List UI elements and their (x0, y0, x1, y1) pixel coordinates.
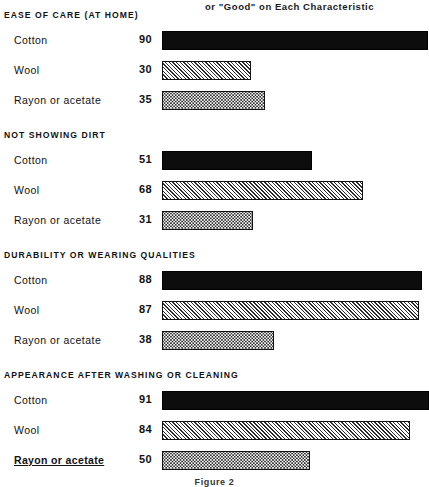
bar-rayon-or-acetate (162, 451, 310, 470)
bar-value: 31 (86, 213, 152, 225)
bar-row: Rayon or acetate35 (0, 90, 429, 114)
bar-wool (162, 421, 410, 440)
bar-row: Rayon or acetate31 (0, 210, 429, 234)
bar-row: Wool84 (0, 420, 429, 444)
chart-group: NOT SHOWING DIRTCotton51Wool68Rayon or a… (0, 130, 429, 245)
bar-row: Wool30 (0, 60, 429, 84)
bar-cotton (162, 151, 312, 170)
bar-value: 35 (86, 93, 152, 105)
bar-value: 87 (86, 303, 152, 315)
bar-row: Cotton51 (0, 150, 429, 174)
chart-group: DURABILITY OR WEARING QUALITIESCotton88W… (0, 250, 429, 365)
bar-cotton (162, 271, 422, 290)
bar-row: Wool87 (0, 300, 429, 324)
figure-caption: Figure 2 (0, 477, 429, 487)
bar-label: Cotton (14, 154, 48, 166)
bar-value: 68 (86, 183, 152, 195)
group-title: NOT SHOWING DIRT (4, 130, 106, 140)
bar-value: 91 (86, 393, 152, 405)
group-title: APPEARANCE AFTER WASHING OR CLEANING (4, 370, 239, 380)
chart-group: EASE OF CARE (AT HOME)Cotton90Wool30Rayo… (0, 10, 429, 125)
bar-row: Rayon or acetate38 (0, 330, 429, 354)
bar-row: Rayon or acetate50 (0, 450, 429, 474)
group-title: DURABILITY OR WEARING QUALITIES (4, 250, 196, 260)
bar-label: Cotton (14, 394, 48, 406)
bar-wool (162, 61, 251, 80)
bar-value: 51 (86, 153, 152, 165)
bar-rayon-or-acetate (162, 91, 265, 110)
bar-value: 84 (86, 423, 152, 435)
bar-row: Cotton91 (0, 390, 429, 414)
bar-value: 38 (86, 333, 152, 345)
bar-rayon-or-acetate (162, 331, 274, 350)
chart-group: APPEARANCE AFTER WASHING OR CLEANINGCott… (0, 370, 429, 485)
bar-label: Wool (14, 64, 40, 76)
bar-row: Wool68 (0, 180, 429, 204)
bar-value: 88 (86, 273, 152, 285)
bar-label: Wool (14, 424, 40, 436)
bar-wool (162, 181, 363, 200)
bar-label: Cotton (14, 34, 48, 46)
bar-value: 30 (86, 63, 152, 75)
bar-row: Cotton88 (0, 270, 429, 294)
bar-label: Cotton (14, 274, 48, 286)
bar-value: 90 (86, 33, 152, 45)
bar-row: Cotton90 (0, 30, 429, 54)
bar-label: Wool (14, 184, 40, 196)
bar-wool (162, 301, 419, 320)
bar-cotton (162, 391, 429, 410)
bar-rayon-or-acetate (162, 211, 253, 230)
bar-cotton (162, 31, 428, 50)
bar-value: 50 (86, 453, 152, 465)
bar-label: Wool (14, 304, 40, 316)
group-title: EASE OF CARE (AT HOME) (4, 10, 139, 20)
